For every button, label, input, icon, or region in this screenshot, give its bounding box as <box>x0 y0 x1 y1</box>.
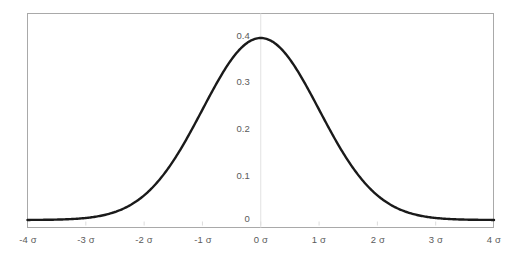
normal-distribution-figure: 0.4 0.3 0.2 0.1 0 -4 σ -3 σ -2 σ -1 σ 0 … <box>0 0 518 258</box>
x-tick-label-minus-1-sigma: -1 σ <box>183 234 223 245</box>
plot-frame <box>27 13 494 228</box>
x-tick-label-4-sigma: 4 σ <box>474 234 514 245</box>
y-tick-label-0: 0.4 <box>210 31 250 41</box>
x-tick-label-2-sigma: 2 σ <box>358 234 398 245</box>
x-tick-label-3-sigma: 3 σ <box>416 234 456 245</box>
y-tick-label-4: 0 <box>210 214 250 224</box>
x-tick-label-0-sigma: 0 σ <box>241 234 281 245</box>
y-tick-label-3: 0.1 <box>210 171 250 181</box>
x-tick-label-minus-2-sigma: -2 σ <box>124 234 164 245</box>
y-tick-label-2: 0.2 <box>210 124 250 134</box>
x-tick-label-1-sigma: 1 σ <box>299 234 339 245</box>
y-tick-label-1: 0.3 <box>210 77 250 87</box>
x-tick-label-minus-4-sigma: -4 σ <box>8 234 48 245</box>
x-tick-label-minus-3-sigma: -3 σ <box>66 234 106 245</box>
